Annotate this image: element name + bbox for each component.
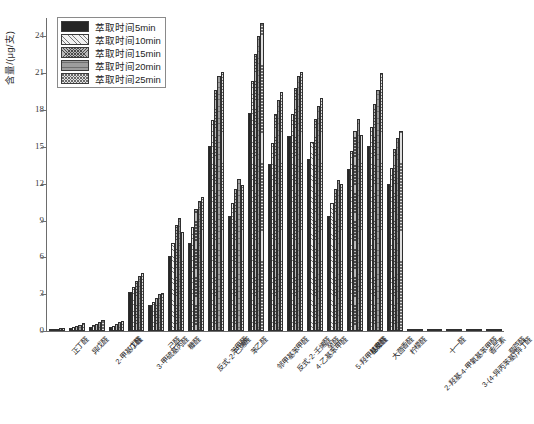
bar[interactable] xyxy=(320,98,323,331)
bar[interactable] xyxy=(280,92,283,331)
x-axis-tick-label: 十一醛 xyxy=(446,334,469,357)
bar-group xyxy=(168,18,184,331)
y-axis-tick-mark xyxy=(41,36,46,37)
bar-group xyxy=(407,18,423,331)
y-axis-tick-mark xyxy=(41,110,46,111)
bar[interactable] xyxy=(459,329,462,331)
bar[interactable] xyxy=(181,232,184,331)
bar-group xyxy=(427,18,443,331)
y-axis-tick-mark xyxy=(41,331,46,332)
y-axis-tick-label: 15 xyxy=(35,141,44,151)
bar-group xyxy=(228,18,244,331)
bar-group xyxy=(347,18,363,331)
y-axis-tick-mark xyxy=(41,73,46,74)
bar-group xyxy=(188,18,204,331)
bar[interactable] xyxy=(201,197,204,331)
x-axis-tick-label: 苯乙醛 xyxy=(247,334,270,357)
y-axis-tick-label: 0 xyxy=(40,325,45,335)
bar-group xyxy=(109,18,125,331)
bar[interactable] xyxy=(499,329,502,331)
y-axis-tick-mark xyxy=(41,221,46,222)
bar-group xyxy=(248,18,264,331)
bar[interactable] xyxy=(82,323,85,331)
bar-group xyxy=(287,18,303,331)
x-axis-tick-label: 糠醛 xyxy=(185,334,203,352)
bar[interactable] xyxy=(399,131,402,331)
x-axis-tick-label: 正丁醛 xyxy=(68,334,91,357)
bar-group xyxy=(89,18,105,331)
bar[interactable] xyxy=(380,73,383,331)
y-axis-tick-label: 9 xyxy=(40,215,45,225)
y-axis-tick-label: 24 xyxy=(35,30,44,40)
y-axis-tick-label: 12 xyxy=(35,178,44,188)
bar-group xyxy=(367,18,383,331)
x-axis-tick-labels: 正丁醛异戊醛2-甲基丁醛戊醛3-甲硫基丙醛己醛糠醛反式-2-己烯醛苯甲醛苯乙醛邻… xyxy=(47,332,504,424)
y-axis-tick-label: 18 xyxy=(35,104,44,114)
x-axis-tick-label: 异戊醛 xyxy=(88,334,111,357)
y-axis-tick-mark xyxy=(41,184,46,185)
bar[interactable] xyxy=(419,329,422,331)
y-axis-tick-label: 6 xyxy=(40,251,45,261)
bar-group xyxy=(208,18,224,331)
bar-group xyxy=(307,18,323,331)
y-axis-tick-label: 21 xyxy=(35,67,44,77)
bar[interactable] xyxy=(260,23,263,331)
bar-group xyxy=(49,18,65,331)
bar[interactable] xyxy=(360,135,363,331)
bar-group xyxy=(69,18,85,331)
bar[interactable] xyxy=(300,72,303,331)
bar[interactable] xyxy=(241,185,244,331)
bar[interactable] xyxy=(340,184,343,331)
y-axis-tick-mark xyxy=(41,294,46,295)
bar-group xyxy=(446,18,462,331)
bar-group xyxy=(268,18,284,331)
bar[interactable] xyxy=(121,321,124,331)
bar-group xyxy=(327,18,343,331)
bar[interactable] xyxy=(161,293,164,331)
bar[interactable] xyxy=(101,320,104,331)
bar[interactable] xyxy=(479,329,482,331)
bar-group xyxy=(486,18,502,331)
y-axis-tick-label: 3 xyxy=(40,288,45,298)
plot-area xyxy=(47,18,504,331)
bar-group xyxy=(148,18,164,331)
bar[interactable] xyxy=(221,72,224,331)
bar-group xyxy=(466,18,482,331)
bar-group xyxy=(387,18,403,331)
y-axis-tick-mark xyxy=(41,257,46,258)
bar[interactable] xyxy=(141,273,144,331)
bar-group xyxy=(128,18,144,331)
y-axis-title: 含量/(μg/支) xyxy=(2,0,16,118)
y-axis-tick-mark xyxy=(41,147,46,148)
bar[interactable] xyxy=(439,329,442,331)
bar[interactable] xyxy=(62,328,65,331)
